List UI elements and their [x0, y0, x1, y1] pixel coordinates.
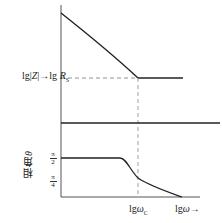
diagram-canvas	[0, 0, 222, 223]
tick-pi-over-4: π4	[49, 174, 57, 189]
tick-pi-over-2: π2	[49, 151, 57, 166]
x-axis-label-lg-omega: lgω→	[175, 203, 200, 214]
tick-lg-omega-c: lgωC	[129, 203, 148, 216]
magnitude-curve-falling	[61, 13, 138, 78]
magnitude-axis-label: lg|Z|→lg RS	[22, 70, 69, 83]
phase-axis-label: 相角θ	[21, 150, 36, 178]
phase-curve	[61, 158, 182, 197]
